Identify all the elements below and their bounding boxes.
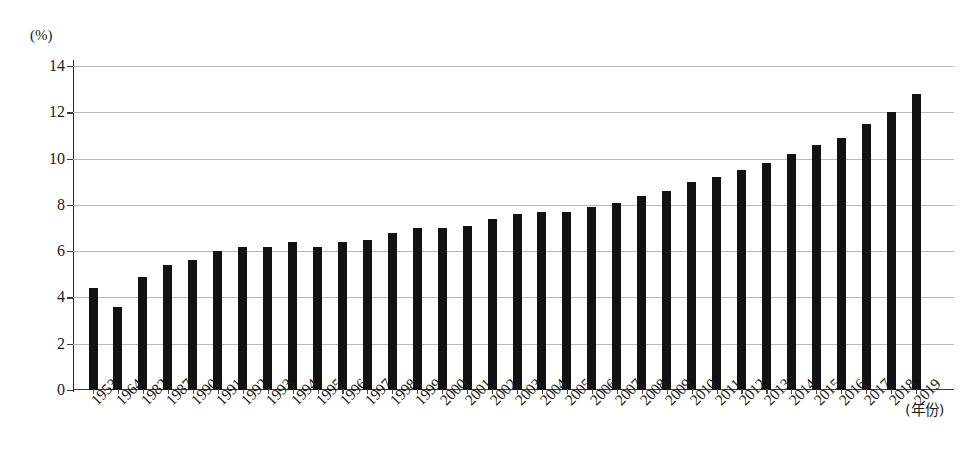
y-axis-tick-label: 0	[57, 382, 65, 398]
y-axis-tick	[67, 159, 73, 160]
gridline	[73, 205, 954, 206]
bar	[887, 112, 896, 390]
bar	[89, 288, 98, 390]
bar	[463, 226, 472, 390]
bar	[413, 228, 422, 390]
y-axis-tick-label: 14	[49, 58, 65, 74]
bar	[338, 242, 347, 390]
bar	[388, 233, 397, 390]
bar	[737, 170, 746, 390]
bar	[113, 307, 122, 390]
bar	[612, 203, 621, 391]
bar	[288, 242, 297, 390]
bar	[313, 247, 322, 391]
bar	[562, 212, 571, 390]
bar	[363, 240, 372, 390]
bar	[163, 265, 172, 390]
y-axis-tick	[67, 112, 73, 113]
bar	[862, 124, 871, 390]
bar	[263, 247, 272, 391]
bar	[513, 214, 522, 390]
bar	[687, 182, 696, 390]
y-axis-tick	[67, 344, 73, 345]
y-axis-tick	[67, 390, 73, 391]
gridline	[73, 66, 954, 67]
y-axis-tick-label: 2	[57, 336, 65, 352]
bar	[587, 207, 596, 390]
bar	[712, 177, 721, 390]
bar	[662, 191, 671, 390]
gridline	[73, 159, 954, 160]
y-axis-tick-label: 6	[57, 243, 65, 259]
y-axis-unit-label: (%)	[30, 27, 53, 44]
bar	[637, 196, 646, 390]
bar	[912, 94, 921, 390]
bar	[188, 260, 197, 390]
bar	[138, 277, 147, 390]
bar-chart: (%) (年份) 0246810121419531964198219871990…	[0, 0, 965, 459]
bar	[787, 154, 796, 390]
y-axis-tick	[67, 251, 73, 252]
y-axis-tick-label: 10	[49, 151, 65, 167]
bar	[438, 228, 447, 390]
y-axis-tick-label: 12	[49, 104, 65, 120]
y-axis-tick-label: 4	[57, 289, 65, 305]
bar	[762, 163, 771, 390]
gridline	[73, 112, 954, 113]
bar	[238, 247, 247, 391]
bar	[837, 138, 846, 390]
y-axis-tick	[67, 297, 73, 298]
bar	[537, 212, 546, 390]
bar	[812, 145, 821, 390]
y-axis-tick-label: 8	[57, 197, 65, 213]
plot-area	[73, 66, 954, 390]
y-axis-tick	[67, 66, 73, 67]
y-axis-tick	[67, 205, 73, 206]
bar	[213, 251, 222, 390]
bar	[488, 219, 497, 390]
